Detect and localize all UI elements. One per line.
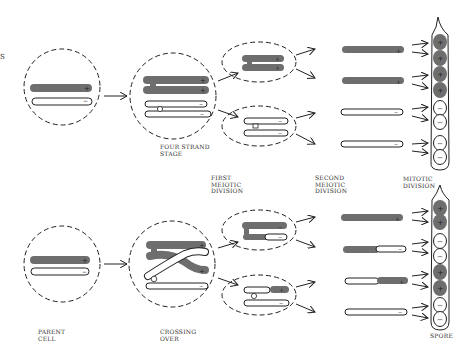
bottom-parent-cell: + −: [24, 226, 100, 302]
svg-text:−: −: [278, 224, 282, 230]
bottom-second-meiotic-products: + − + −: [341, 214, 408, 315]
svg-text:+: +: [437, 54, 444, 63]
svg-text:+: +: [84, 85, 90, 93]
svg-text:+: +: [437, 86, 444, 95]
svg-text:−: −: [437, 119, 443, 127]
label-mitotic-division: MITOTIC DIVISION: [403, 176, 435, 189]
svg-text:−: −: [199, 101, 203, 107]
top-first-meiotic-upper: + +: [222, 42, 296, 82]
bottom-first-meiotic-upper: − −: [222, 210, 296, 250]
svg-text:+: +: [437, 204, 444, 213]
svg-text:−: −: [437, 302, 443, 310]
svg-text:+: +: [437, 70, 444, 79]
svg-text:+: +: [275, 64, 280, 71]
svg-text:−: −: [437, 253, 443, 261]
svg-text:+: +: [437, 38, 444, 47]
top-second-meiotic-products: + + − −: [341, 46, 404, 147]
svg-text:+: +: [199, 268, 205, 276]
label-four-strand-stage: FOUR STRAND STAGE: [160, 144, 210, 157]
svg-text:+: +: [396, 47, 401, 54]
svg-text:−: −: [394, 109, 398, 115]
svg-text:−: −: [398, 246, 402, 252]
svg-text:−: −: [200, 111, 204, 117]
svg-text:−: −: [437, 154, 443, 162]
bottom-ascus: + + − − + + − −: [431, 185, 449, 330]
label-parent-cell: PARENT CELL: [38, 329, 65, 342]
top-parent-cell: + −: [24, 49, 100, 125]
label-spore: SPORE: [430, 333, 453, 340]
label-second-meiotic-division: SECOND MEIOTIC DIVISION: [315, 175, 347, 195]
top-first-meiotic-lower: − −: [222, 106, 296, 146]
title-fragment: S: [0, 54, 5, 61]
svg-text:−: −: [199, 283, 203, 289]
svg-text:−: −: [279, 300, 283, 306]
svg-text:+: +: [399, 278, 404, 285]
svg-text:−: −: [437, 140, 443, 148]
svg-text:+: +: [396, 78, 401, 85]
svg-text:−: −: [82, 268, 87, 275]
svg-text:+: +: [200, 77, 206, 85]
svg-text:+: +: [437, 218, 444, 227]
svg-text:−: −: [278, 234, 282, 240]
top-mitotic-arrows: [412, 43, 428, 153]
bottom-mitotic-arrows: [412, 211, 428, 318]
svg-text:−: −: [278, 118, 282, 124]
svg-text:+: +: [395, 215, 400, 222]
svg-text:−: −: [437, 105, 443, 113]
svg-text:−: −: [437, 316, 443, 324]
bottom-crossing-over-cell: + + −: [129, 221, 215, 307]
svg-text:+: +: [82, 257, 88, 265]
svg-text:−: −: [278, 130, 282, 136]
svg-text:−: −: [83, 97, 88, 104]
svg-text:−: −: [394, 141, 398, 147]
svg-text:+: +: [279, 286, 284, 293]
svg-text:−: −: [437, 238, 443, 246]
svg-text:+: +: [200, 87, 206, 95]
svg-text:−: −: [398, 309, 402, 315]
bottom-first-meiotic-lower: + −: [222, 275, 296, 315]
svg-text:+: +: [437, 284, 444, 293]
svg-text:+: +: [275, 55, 280, 62]
top-four-strand-cell: + + − −: [130, 53, 216, 139]
label-crossing-over: CROSSING OVER: [160, 329, 196, 342]
svg-text:+: +: [437, 268, 444, 277]
top-ascus: + + + + − − − −: [431, 17, 449, 170]
label-first-meiotic-division: FIRST MEIOTIC DIVISION: [211, 175, 243, 195]
